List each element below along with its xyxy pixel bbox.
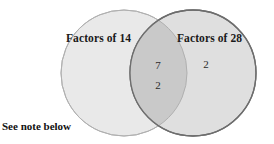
venn-diagram-canvas — [0, 0, 274, 144]
venn-diagram-figure: Factors of 14 Factors of 28 7 2 2 See no… — [0, 0, 274, 144]
